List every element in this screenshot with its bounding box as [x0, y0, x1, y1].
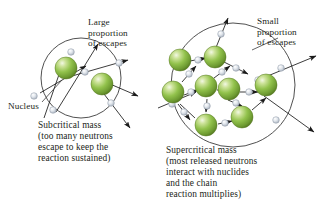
nucleus-leader-line [42, 80, 62, 102]
caption-supercritical-mass: Supercritical mass (most released neutro… [166, 145, 257, 200]
nucleus-sphere [169, 49, 191, 71]
figure-canvas: Large proportion of escapes Small propor… [0, 0, 324, 212]
nucleus-sphere [204, 46, 226, 68]
nucleus-sphere [231, 106, 253, 128]
nucleus-sphere [255, 74, 277, 96]
subcritical-nuclei [55, 57, 113, 95]
label-nucleus: Nucleus [8, 101, 39, 112]
label-small-proportion-of-escapes: Small proportion of escapes [257, 16, 297, 48]
nucleus-sphere [218, 78, 240, 100]
supercritical-nuclei [162, 46, 277, 136]
nucleus-sphere [162, 81, 184, 103]
nucleus-sphere [91, 73, 113, 95]
subcritical-mass-group [31, 38, 138, 128]
label-large-proportion-of-escapes: Large proportion of escapes [88, 17, 128, 49]
nucleus-sphere [195, 75, 217, 97]
caption-subcritical-mass: Subcritical mass (too many neutrons esca… [38, 120, 113, 164]
subcritical-neutron-tracks [40, 44, 138, 128]
nucleus-sphere [195, 114, 217, 136]
nucleus-sphere [55, 57, 77, 79]
